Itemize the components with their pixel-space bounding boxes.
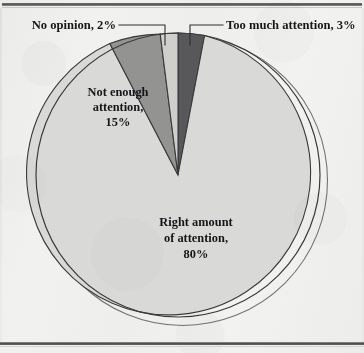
slice-label-right-amount-line3: 80% xyxy=(184,247,209,261)
slice-label-right-amount-line2: of attention, xyxy=(164,231,228,245)
scanned-page: No opinion, 2% Too much attention, 3% No… xyxy=(0,0,364,353)
pie-chart: No opinion, 2% Too much attention, 3% No… xyxy=(0,0,364,353)
page-bottom-rule xyxy=(0,342,364,345)
page-bottom-rule-hairline xyxy=(0,346,364,347)
slice-label-not-enough-line1: Not enough xyxy=(88,85,149,99)
slice-label-not-enough-line2: attention, xyxy=(93,100,144,114)
callout-label-too-much-attention: Too much attention, 3% xyxy=(226,18,356,32)
callout-label-no-opinion: No opinion, 2% xyxy=(32,18,116,32)
slice-label-not-enough-line3: 15% xyxy=(106,115,131,129)
slice-label-right-amount-line1: Right amount xyxy=(159,215,233,229)
